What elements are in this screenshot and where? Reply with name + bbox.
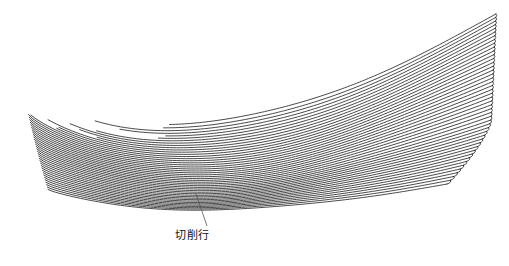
step-over-link: [494, 58, 495, 62]
step-over-link: [492, 97, 493, 101]
step-over-link: [491, 109, 492, 113]
step-over-link: [494, 62, 495, 66]
step-over-link: [493, 74, 494, 78]
annotation-label-cutting-rows: 切削行: [175, 230, 210, 241]
step-over-link: [494, 51, 495, 55]
step-over-link: [492, 89, 493, 93]
step-over-link: [494, 43, 495, 47]
step-over-link: [494, 47, 495, 51]
step-over-link: [495, 28, 496, 32]
step-over-link: [492, 101, 493, 105]
step-over-link: [493, 66, 494, 70]
step-over-link: [492, 85, 493, 89]
cutting-pass-group: [29, 14, 497, 210]
step-over-link: [493, 78, 494, 82]
cutting-pass: [170, 14, 496, 125]
step-over-link: [496, 17, 497, 21]
step-over-link: [494, 55, 495, 59]
cutting-pass: [97, 47, 494, 148]
step-over-link: [495, 32, 496, 36]
step-over-link: [495, 21, 496, 25]
figure-root: 切削行: [0, 0, 509, 266]
step-over-link: [492, 93, 493, 97]
step-over-link: [495, 36, 496, 40]
step-over-link: [491, 116, 492, 120]
step-over-link: [492, 105, 493, 109]
cutting-pass: [59, 55, 494, 153]
toolpath-diagram: [0, 0, 509, 266]
step-over-link: [491, 112, 492, 116]
step-over-link: [493, 70, 494, 74]
step-over-link: [496, 14, 497, 17]
step-over-link: [495, 25, 496, 29]
step-over-link: [495, 39, 496, 43]
step-over-link: [493, 82, 494, 86]
